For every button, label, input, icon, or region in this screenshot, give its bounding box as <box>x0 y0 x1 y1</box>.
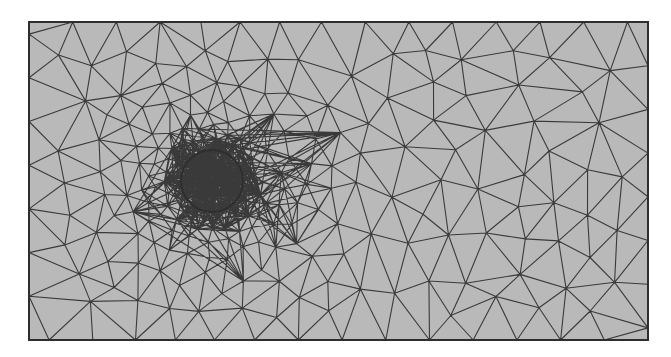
mesh-diagram <box>0 0 671 357</box>
